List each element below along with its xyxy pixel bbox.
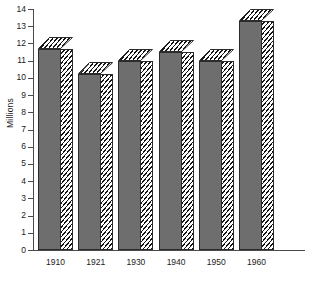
bar-top-face bbox=[118, 49, 153, 61]
bar-1960 bbox=[239, 9, 274, 250]
bar-top-face bbox=[38, 37, 73, 49]
x-axis-tick-label: 1950 bbox=[193, 258, 239, 267]
bar-1930 bbox=[118, 49, 153, 250]
bar-1921 bbox=[78, 62, 113, 250]
bar-front-face bbox=[78, 74, 101, 250]
bar-1950 bbox=[199, 49, 234, 250]
bar-front-face bbox=[239, 21, 262, 250]
bar-side-face bbox=[141, 61, 153, 250]
bar-side-face bbox=[182, 52, 194, 250]
bar-top-face bbox=[78, 62, 113, 74]
bar-1910 bbox=[38, 37, 73, 250]
bar-side-face bbox=[262, 21, 274, 250]
bar-front-face bbox=[118, 61, 141, 250]
bar-side-face bbox=[101, 74, 113, 250]
bar-top-face bbox=[159, 40, 194, 52]
bar-front-face bbox=[38, 49, 61, 250]
bar-front-face bbox=[159, 52, 182, 250]
x-axis-tick-label: 1921 bbox=[73, 258, 119, 267]
bar-chart: Millions 01234567891011121314 1910192119… bbox=[0, 0, 310, 284]
bar-side-face bbox=[61, 49, 73, 250]
x-axis-tick-label: 1930 bbox=[113, 258, 159, 267]
bars-layer bbox=[0, 0, 310, 284]
bar-front-face bbox=[199, 61, 222, 250]
bar-top-face bbox=[239, 9, 274, 21]
x-axis-tick-label: 1910 bbox=[33, 258, 79, 267]
bar-1940 bbox=[159, 40, 194, 250]
x-axis-tick-label: 1960 bbox=[234, 258, 280, 267]
bar-top-face bbox=[199, 49, 234, 61]
x-axis-tick-label: 1940 bbox=[153, 258, 199, 267]
bar-side-face bbox=[222, 61, 234, 250]
